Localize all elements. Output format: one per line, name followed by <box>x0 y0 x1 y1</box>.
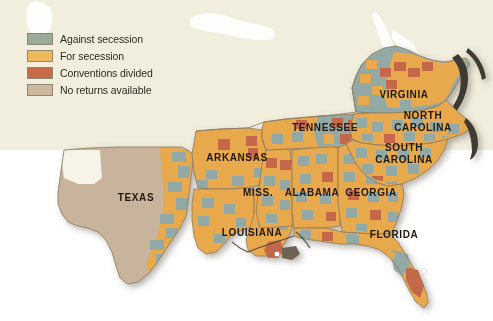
legend-label-conventions-divided: Conventions divided <box>60 67 153 79</box>
florida-dot <box>422 269 427 274</box>
secession-map-figure: Against secession For secession Conventi… <box>0 0 493 321</box>
legend-item-for-secession: For secession <box>27 48 148 64</box>
state-alabama <box>292 146 340 228</box>
legend-item-no-returns: No returns available <box>27 82 148 98</box>
new-orleans-dot <box>275 252 280 257</box>
legend-swatch-no-returns <box>27 84 53 96</box>
legend-swatch-against-secession <box>27 33 53 45</box>
legend-label-for-secession: For secession <box>60 50 124 62</box>
legend-label-no-returns: No returns available <box>60 84 151 96</box>
legend-item-against-secession: Against secession <box>27 31 148 47</box>
map-legend: Against secession For secession Conventi… <box>20 27 152 104</box>
legend-swatch-conventions-divided <box>27 67 53 79</box>
legend-label-against-secession: Against secession <box>60 33 143 45</box>
state-arkansas <box>192 128 266 189</box>
legend-swatch-for-secession <box>27 50 53 62</box>
legend-item-conventions-divided: Conventions divided <box>27 65 148 81</box>
